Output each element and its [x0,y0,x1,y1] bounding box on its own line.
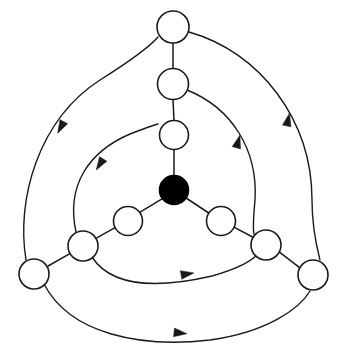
graph-node[interactable] [157,11,189,43]
graph-node[interactable] [114,207,143,236]
arrowhead-glyph [283,112,294,127]
graph-node-hub[interactable] [160,176,189,205]
arc-arrowhead [283,112,294,127]
graph-node[interactable] [19,259,49,289]
graph-node[interactable] [207,207,236,236]
arrowhead-glyph [180,269,194,280]
graph-canvas [0,0,345,358]
graph-node[interactable] [298,260,328,290]
arrowhead-glyph [174,328,188,338]
graph-edge[interactable] [97,228,115,238]
graph-edge[interactable] [280,252,300,267]
graph-node[interactable] [68,231,98,261]
arc-arrowhead [174,328,188,338]
arc-arrowhead [93,157,107,173]
graph-diagram [0,0,345,358]
graph-node[interactable] [251,230,281,260]
graph-edge[interactable] [186,198,209,214]
arrowhead-glyph [232,134,244,149]
graph-edge[interactable] [139,199,162,213]
arrowhead-glyph [93,157,107,173]
graph-node[interactable] [158,69,189,100]
graph-edge[interactable] [234,227,252,237]
arc-arrowhead [180,269,194,280]
graph-arc[interactable] [92,255,257,283]
arc-arrowhead [232,134,244,149]
graph-edge[interactable] [173,100,174,121]
graph-node[interactable] [160,121,189,150]
graph-edge[interactable] [48,254,69,266]
